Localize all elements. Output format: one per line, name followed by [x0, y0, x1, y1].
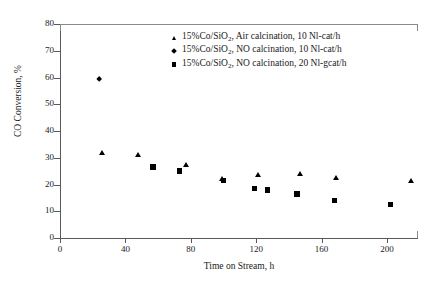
y-axis-tick-label: 20 [28, 180, 54, 189]
data-point-square [388, 202, 393, 207]
y-axis-title: CO Conversion, % [13, 31, 23, 171]
y-axis-tick-label: 40 [28, 126, 54, 135]
data-point-triangle [297, 171, 303, 176]
chart-legend: 15%Co/SiO2, Air calcination, 10 Nl-cat/h… [168, 31, 346, 72]
y-axis-tick-label: 50 [28, 99, 54, 108]
data-point-square [265, 187, 270, 192]
x-axis-tick [256, 238, 257, 243]
data-point-square [294, 191, 299, 196]
data-point-diamond [96, 76, 102, 82]
y-axis-tick-label: 30 [28, 153, 54, 162]
diamond-marker-icon [168, 49, 180, 53]
x-axis-tick-label: 160 [307, 245, 337, 254]
data-point-triangle [135, 152, 141, 157]
x-axis-tick-label: 40 [110, 245, 140, 254]
data-point-triangle [333, 175, 339, 180]
y-axis-tick-label: 70 [28, 46, 54, 55]
y-axis-tick-label: 80 [28, 19, 54, 28]
data-point-triangle [183, 162, 189, 167]
x-axis-tick [322, 238, 323, 243]
x-axis-tick [387, 238, 388, 243]
x-axis-title: Time on Stream, h [60, 261, 418, 271]
y-axis-tick-label: 10 [28, 206, 54, 215]
data-point-square [252, 186, 257, 191]
x-axis-tick-label: 200 [372, 245, 402, 254]
data-point-square [332, 198, 337, 203]
triangle-marker-icon [168, 36, 180, 40]
x-axis-tick [191, 238, 192, 243]
legend-label: 15%Co/SiO2, NO calcination, 20 Nl-gcat/h [180, 57, 346, 74]
data-point-triangle [408, 178, 414, 183]
co-conversion-scatter-chart: 01020304050607080 04080120160200 CO Conv… [0, 0, 438, 284]
square-marker-icon [168, 62, 180, 67]
x-axis-tick [125, 238, 126, 243]
x-axis-tick-label: 120 [241, 245, 271, 254]
x-axis-tick-label: 80 [176, 245, 206, 254]
x-axis-tick [60, 238, 61, 243]
y-axis-tick-label: 0 [28, 233, 54, 242]
x-axis-tick-label: 0 [45, 245, 75, 254]
y-axis-tick-label: 60 [28, 73, 54, 82]
data-point-square [150, 164, 155, 169]
data-point-triangle [255, 172, 261, 177]
data-point-square [177, 168, 182, 173]
data-point-triangle [99, 150, 105, 155]
data-point-square [221, 178, 226, 183]
x-axis-line [60, 238, 418, 239]
legend-entry: 15%Co/SiO2, NO calcination, 20 Nl-gcat/h [168, 58, 346, 72]
